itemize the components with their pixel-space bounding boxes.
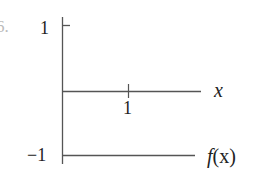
y-tick-label-neg1: −1: [27, 146, 46, 164]
function-label: f(x): [207, 146, 236, 166]
problem-number: 6.: [0, 18, 9, 35]
figure: 6. 1 −1 1 x f(x): [0, 0, 259, 179]
y-tick-label-1: 1: [40, 19, 49, 37]
x-axis-label: x: [214, 80, 223, 100]
x-tick-label-1: 1: [123, 99, 132, 117]
function-arg: (x): [213, 145, 236, 167]
